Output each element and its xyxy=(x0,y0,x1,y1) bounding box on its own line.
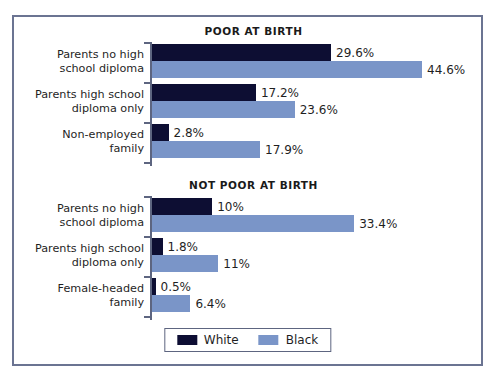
bar-value-black: 6.4% xyxy=(190,297,226,311)
bar-row-black: 17.9% xyxy=(152,141,482,158)
bar-group: Parents high school diploma only 1.8% 11… xyxy=(14,237,481,273)
chart-legend: White Black xyxy=(164,328,331,352)
bar-group: Non-employed family 2.8% 17.9% xyxy=(14,123,481,159)
bar-value-black: 17.9% xyxy=(260,143,303,157)
bar-white[interactable] xyxy=(152,238,163,255)
bar-value-white: 1.8% xyxy=(163,240,199,254)
bar-row-white: 2.8% xyxy=(152,124,482,141)
bar-row-black: 44.6% xyxy=(152,61,482,78)
panel-not-poor-at-birth: NOT POOR AT BIRTH Parents no high school… xyxy=(14,177,481,362)
bar-value-black: 33.4% xyxy=(354,217,397,231)
legend-swatch-black-icon xyxy=(259,335,279,345)
bar-pair: 10% 33.4% xyxy=(152,198,482,232)
category-label: Non-employed family xyxy=(14,128,144,155)
chart-frame: POOR AT BIRTH Parents no high school dip… xyxy=(12,15,483,366)
bar-group: Parents high school diploma only 17.2% 2… xyxy=(14,83,481,119)
bar-black[interactable] xyxy=(152,141,261,158)
axis-tick xyxy=(144,162,150,164)
legend-item-white[interactable]: White xyxy=(177,333,239,347)
legend-label-black: Black xyxy=(286,333,318,347)
plot-area-poor: Parents no high school diploma 29.6% 44.… xyxy=(14,42,481,166)
bar-row-black: 23.6% xyxy=(152,101,482,118)
category-label: Female-headed family xyxy=(14,282,144,309)
bar-black[interactable] xyxy=(152,295,191,312)
plot-area-not-poor: Parents no high school diploma 10% 33.4%… xyxy=(14,196,481,320)
legend-label-white: White xyxy=(204,333,239,347)
legend-item-black[interactable]: Black xyxy=(259,333,318,347)
bar-row-black: 33.4% xyxy=(152,215,482,232)
category-label: Parents no high school diploma xyxy=(14,202,144,229)
bar-row-white: 1.8% xyxy=(152,238,482,255)
bar-pair: 0.5% 6.4% xyxy=(152,278,482,312)
bar-black[interactable] xyxy=(152,101,295,118)
bar-pair: 1.8% 11% xyxy=(152,238,482,272)
bar-black[interactable] xyxy=(152,61,423,78)
panel-title-poor-at-birth: POOR AT BIRTH xyxy=(14,23,481,39)
bar-white[interactable] xyxy=(152,198,213,215)
bar-group: Parents no high school diploma 29.6% 44.… xyxy=(14,43,481,79)
bar-row-white: 29.6% xyxy=(152,44,482,61)
category-label: Parents high school diploma only xyxy=(14,242,144,269)
bar-value-black: 11% xyxy=(218,257,250,271)
bar-white[interactable] xyxy=(152,84,256,101)
bar-black[interactable] xyxy=(152,215,355,232)
bar-value-white: 0.5% xyxy=(156,280,192,294)
bar-white[interactable] xyxy=(152,44,332,61)
bar-pair: 17.2% 23.6% xyxy=(152,84,482,118)
bar-value-white: 29.6% xyxy=(331,46,374,60)
bar-value-white: 2.8% xyxy=(169,126,205,140)
bar-value-white: 10% xyxy=(212,200,244,214)
category-label: Parents no high school diploma xyxy=(14,48,144,75)
axis-tick xyxy=(144,316,150,318)
bar-row-black: 11% xyxy=(152,255,482,272)
panel-poor-at-birth: POOR AT BIRTH Parents no high school dip… xyxy=(14,23,481,183)
bar-group: Parents no high school diploma 10% 33.4% xyxy=(14,197,481,233)
bar-row-white: 17.2% xyxy=(152,84,482,101)
bar-pair: 2.8% 17.9% xyxy=(152,124,482,158)
panel-title-not-poor-at-birth: NOT POOR AT BIRTH xyxy=(14,177,481,193)
bar-group: Female-headed family 0.5% 6.4% xyxy=(14,277,481,313)
bar-pair: 29.6% 44.6% xyxy=(152,44,482,78)
bar-white[interactable] xyxy=(152,124,169,141)
bar-value-black: 44.6% xyxy=(422,63,465,77)
category-label: Parents high school diploma only xyxy=(14,88,144,115)
bar-value-white: 17.2% xyxy=(256,86,299,100)
bar-row-black: 6.4% xyxy=(152,295,482,312)
bar-value-black: 23.6% xyxy=(295,103,338,117)
bar-black[interactable] xyxy=(152,255,219,272)
bar-row-white: 0.5% xyxy=(152,278,482,295)
bar-row-white: 10% xyxy=(152,198,482,215)
legend-swatch-white-icon xyxy=(177,335,197,345)
